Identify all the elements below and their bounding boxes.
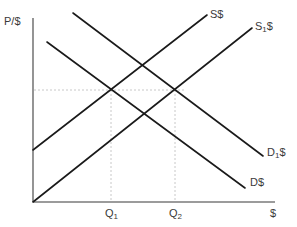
y-axis-label: P/$ <box>4 16 21 27</box>
x-tick-q2: Q2 <box>169 208 182 221</box>
curve-label-d-suffix: $ <box>258 176 264 188</box>
curve-label-s1-suffix: $ <box>267 20 273 32</box>
axes <box>33 18 275 202</box>
supply-curve-s <box>33 15 207 150</box>
curve-label-d-main: D <box>250 176 258 188</box>
supply-curve-s1 <box>33 28 252 202</box>
curve-label-s: S$ <box>210 9 223 20</box>
curve-label-d: D$ <box>250 177 264 188</box>
x-tick-q1-main: Q <box>105 207 114 219</box>
curve-label-d1-main: D <box>267 146 275 158</box>
curves <box>33 13 263 202</box>
curve-label-d1-suffix: $ <box>279 146 285 158</box>
x-tick-q2-sub: 2 <box>178 212 182 221</box>
curve-label-s-suffix: $ <box>217 8 223 20</box>
demand-curve-d1 <box>73 13 263 156</box>
x-tick-q2-main: Q <box>169 207 178 219</box>
curve-label-d1: D1$ <box>267 147 286 160</box>
x-tick-q1: Q1 <box>105 208 118 221</box>
demand-curve-d <box>47 42 245 188</box>
x-tick-q1-sub: 1 <box>114 212 118 221</box>
curve-label-s1: S1$ <box>255 21 273 34</box>
guide-lines <box>34 90 186 201</box>
x-axis-label: $ <box>270 208 276 219</box>
supply-demand-chart <box>0 0 297 227</box>
